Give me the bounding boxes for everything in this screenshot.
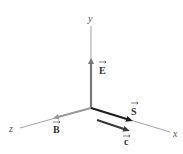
vector-b: B (53, 108, 91, 135)
axes: y z x (8, 13, 178, 139)
c-arrow (97, 120, 127, 130)
c-label: c (124, 136, 129, 147)
b-vector-arrow-mark (53, 121, 60, 123)
e-vector-arrow-mark (99, 61, 106, 63)
x-axis-label: x (172, 128, 178, 139)
b-label: B (53, 124, 60, 135)
s-vector-arrow-mark (131, 102, 138, 104)
vector-s: S (91, 102, 138, 120)
y-axis-label: y (87, 13, 93, 24)
vector-c: c (97, 120, 130, 147)
s-label: S (131, 106, 137, 117)
vector-e: E (91, 61, 106, 108)
z-axis-label: z (8, 123, 13, 134)
s-arrow (91, 108, 130, 120)
em-wave-diagram: y z x E B S c (0, 0, 183, 154)
e-label: E (99, 65, 106, 76)
b-arrow (56, 108, 91, 118)
